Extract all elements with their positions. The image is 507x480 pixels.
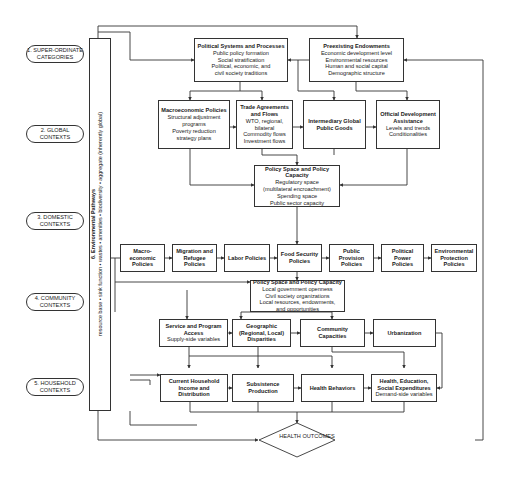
box-line: Commodity flows (243, 131, 286, 138)
level-label: 3. DOMESTIC CONTEXTS (27, 214, 83, 228)
box-title: Environmental Protection Policies (434, 248, 474, 268)
box-title: Urbanization (388, 330, 422, 337)
box-title: Macro-economic Policies (123, 248, 162, 268)
box-title: Service and Program Access (162, 323, 225, 337)
box-line: civil society traditions (215, 70, 268, 77)
level-domestic: 3. DOMESTIC CONTEXTS (26, 212, 84, 230)
box-labor-policies: Labor Policies (224, 244, 270, 272)
box-migration-refugee: Migration and Refugee Policies (172, 244, 217, 272)
box-title: Trade Agreements and Flows (239, 104, 290, 118)
environmental-title: 6. Environmental Pathways (90, 44, 97, 404)
box-line: Spending space (277, 193, 317, 200)
box-line: Social stratification (218, 57, 265, 64)
box-line: bilateral (255, 125, 275, 132)
box-environmental-protection: Environmental Protection Policies (431, 244, 477, 272)
box-line: Investment flows (244, 138, 286, 145)
box-line: Civil society organizations (265, 293, 329, 300)
box-line: Levels and trends (386, 125, 430, 132)
box-macroeconomic-policies: Macroeconomic Policies Structural adjust… (158, 100, 230, 149)
box-line: Poverty reduction (172, 128, 216, 135)
level-community: 4. COMMUNITY CONTEXTS (26, 293, 84, 311)
box-title: Macroeconomic Policies (161, 107, 226, 114)
level-label: 2. GLOBAL CONTEXTS (27, 127, 83, 141)
box-line: and opportunities (276, 306, 319, 313)
level-global: 2. GLOBAL CONTEXTS (26, 125, 84, 143)
box-title: Political Power Policies (384, 248, 421, 268)
health-determinants-diagram: 1. SUPER-ORDINATE CATEGORIES 2. GLOBAL C… (0, 0, 507, 480)
box-title: Preexisting Endowments (323, 43, 390, 50)
box-geographic-disparities: Geographic (Regional, Local) Disparities (232, 319, 291, 347)
box-trade-agreements: Trade Agreements and Flows WTO, regional… (236, 100, 293, 149)
box-line: Public sector capacity (270, 200, 324, 207)
box-local-policy-capacity: Policy Space and Policy Capacity Local g… (250, 280, 345, 312)
box-title: Policy Space and Policy Capacity (257, 166, 337, 180)
box-title: Community Capacities (303, 326, 362, 340)
box-title: Food Security Policies (280, 251, 319, 265)
box-health-education-expenditures: Health, Education, Social Expenditures D… (371, 374, 437, 402)
box-line: Political, economic, and (212, 63, 271, 70)
box-line: Supply-side variables (167, 336, 220, 343)
level-label: 5. HOUSEHOLD CONTEXTS (27, 380, 83, 394)
environmental-pathways-text: 6. Environmental Pathways resource base … (90, 44, 110, 404)
box-national-policy-capacity: Policy Space and Policy Capacity Regulat… (254, 165, 340, 207)
box-line: Economic development level (321, 50, 392, 57)
health-outcomes-label: HEALTH OUTCOMES (262, 433, 352, 439)
box-food-security: Food Security Policies (277, 244, 322, 272)
box-household-income: Current Household Income and Distributio… (160, 374, 228, 402)
box-global-public-goods: Intermediary Global Public Goods (303, 100, 366, 149)
box-line: Structural adjustment (168, 114, 221, 121)
box-title: Labor Policies (228, 255, 266, 262)
box-line: Regulatory space (275, 179, 319, 186)
box-preexisting-endowments: Preexisting Endowments Economic developm… (309, 38, 404, 82)
box-line: Local government openness (262, 286, 332, 293)
box-title: Health Behaviors (310, 385, 356, 392)
box-line: Public policy formation (213, 50, 269, 57)
box-line: Demographic structure (328, 70, 385, 77)
box-title: Public Provision Policies (332, 248, 371, 268)
box-title: Political Systems and Processes (197, 43, 284, 50)
box-title: Intermediary Global Public Goods (306, 118, 363, 132)
environmental-line: resource base • sink function • wastes •… (97, 112, 103, 336)
health-outcomes-diamond (259, 423, 335, 457)
box-service-program-access: Service and Program Access Supply-side v… (159, 319, 228, 347)
box-title: Policy Space and Policy Capacity (253, 279, 342, 286)
box-line: WTO, regional, (246, 118, 284, 125)
box-line: Demand-side variables (375, 391, 432, 398)
box-line: Local resources, endowments, (260, 299, 336, 306)
box-title: Health, Education, Social Expenditures (374, 378, 434, 392)
box-subsistence-production: Subsistence Production (232, 374, 294, 402)
box-domestic-macroeconomic: Macro-economic Policies (120, 244, 165, 272)
box-urbanization: Urbanization (373, 319, 436, 347)
box-title: Geographic (Regional, Local) Disparities (235, 323, 288, 343)
box-line: Environmental resources (326, 57, 388, 64)
box-line: programs (182, 121, 206, 128)
box-line: strategy plans (177, 135, 212, 142)
box-title: Subsistence Production (235, 381, 291, 395)
box-title: Official Development Assistance (379, 111, 437, 125)
box-line: Human and social capital (325, 63, 388, 70)
box-community-capacities: Community Capacities (300, 319, 365, 347)
box-title: Migration and Refugee Policies (175, 248, 214, 268)
box-official-development-assistance: Official Development Assistance Levels a… (376, 100, 440, 149)
level-superordinate: 1. SUPER-ORDINATE CATEGORIES (26, 45, 84, 63)
box-political-systems: Political Systems and Processes Public p… (194, 38, 288, 82)
level-household: 5. HOUSEHOLD CONTEXTS (26, 378, 84, 396)
level-label: 4. COMMUNITY CONTEXTS (27, 295, 83, 309)
box-health-behaviors: Health Behaviors (301, 374, 364, 402)
box-political-power: Political Power Policies (381, 244, 424, 272)
box-line: Conditionalities (389, 131, 427, 138)
box-title: Current Household Income and Distributio… (163, 378, 225, 398)
box-public-provision: Public Provision Policies (329, 244, 374, 272)
box-line: (multilateral encroachment) (263, 186, 331, 193)
level-label: 1. SUPER-ORDINATE CATEGORIES (27, 47, 83, 61)
